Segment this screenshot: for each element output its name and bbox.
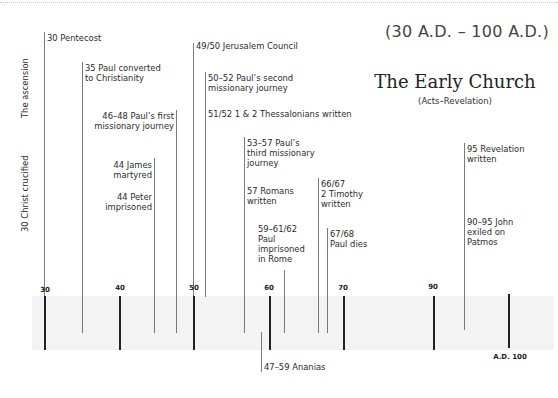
tick-70 [343,296,345,350]
event-peter: 44 Peter imprisoned [105,192,152,212]
event-james: 44 James martyred [113,160,152,180]
paul-dies-line [327,228,328,333]
event-romans: 57 Romans written [247,186,294,206]
event-paul-converted: 35 Paul converted to Christianity [85,63,161,83]
event-revelation: 95 Revelation written [467,144,525,164]
tick-label-90: 90 [428,283,438,291]
tick-label-30: 30 [40,286,50,294]
event-third-journey-line2: third missionary [247,148,315,158]
event-romans-line1: 57 Romans [247,186,294,196]
tick-label-70: 70 [338,284,348,292]
event-third-journey-line1: 53–57 Paul’s [247,138,315,148]
event-revelation-line1: 95 Revelation [467,144,525,154]
tick-90 [433,296,435,350]
tick-label-100: A.D. 100 [493,353,527,361]
event-paul-dies-line2: Paul dies [330,239,367,249]
event-paul-dies-line1: 67/68 [330,229,367,239]
event-pentecost-text: 30 Pentecost [47,33,101,43]
chart-title: The Early Church [370,71,540,92]
event-timothy-line2: 2 Timothy [321,189,363,199]
event-timothy: 66/67 2 Timothy written [321,179,363,209]
timothy-line [318,178,319,333]
tick-label-60: 60 [264,284,274,292]
event-imprisoned: 59–61/62 Paul imprisoned in Rome [258,224,305,264]
event-first-journey-line1: 46–48 Paul’s first [94,111,174,121]
first-journey-line [176,110,177,333]
ascension-label: The ascension [20,58,30,118]
event-second-journey-line2: missionary journey [208,83,293,93]
tick-60 [269,296,271,350]
event-thessalonians: 51/52 1 & 2 Thessalonians written [208,109,352,119]
james-peter-line [154,158,155,333]
event-john-line1: 90–95 John [467,217,513,227]
event-timothy-line3: written [321,199,363,209]
imprisoned-line [284,270,285,333]
event-john-line2: exiled on [467,227,513,237]
event-john-exiled: 90–95 John exiled on Patmos [467,217,513,247]
event-council: 49/50 Jerusalem Council [196,41,298,51]
chart-subtitle: (Acts–Revelation) [370,96,540,106]
event-ananias-text: 47–59 Ananias [264,362,325,372]
tick-label-40: 40 [115,284,125,292]
event-revelation-line2: written [467,154,525,164]
event-thessalonians-text: 51/52 1 & 2 Thessalonians written [208,109,352,119]
tick-30 [44,296,46,350]
event-paul-dies: 67/68 Paul dies [330,229,367,249]
tick-40 [119,296,121,350]
event-james-line2: martyred [113,170,152,180]
tick-label-50: 50 [189,284,199,292]
council-line [193,43,194,296]
timeline-band [32,296,554,350]
event-first-journey: 46–48 Paul’s first missionary journey [94,111,174,131]
event-paul-converted-line1: 35 Paul converted [85,63,161,73]
paul-converted-line [82,62,83,333]
revelation-line [464,143,465,330]
event-peter-line2: imprisoned [105,202,152,212]
crucified-label: 30 Christ crucified [20,155,30,232]
second-journey-line [205,72,206,297]
event-john-line3: Patmos [467,237,513,247]
event-timothy-line1: 66/67 [321,179,363,189]
third-journey-line [244,137,245,333]
event-third-journey-line3: journey [247,158,315,168]
event-council-text: 49/50 Jerusalem Council [196,41,298,51]
date-range-title: (30 A.D. – 100 A.D.) [385,22,549,41]
event-second-journey: 50–52 Paul’s second missionary journey [208,73,293,93]
event-imprisoned-line4: in Rome [258,254,305,264]
event-pentecost: 30 Pentecost [47,33,101,43]
tick-100 [508,294,510,348]
ananias-line [261,332,262,372]
event-second-journey-line1: 50–52 Paul’s second [208,73,293,83]
event-peter-line1: 44 Peter [105,192,152,202]
event-paul-converted-line2: to Christianity [85,73,161,83]
event-imprisoned-line1: 59–61/62 [258,224,305,234]
tick-50 [193,296,195,350]
event-ananias: 47–59 Ananias [264,362,325,372]
top-border [0,2,558,3]
event-first-journey-line2: missionary journey [94,121,174,131]
event-romans-line2: written [247,196,294,206]
event-imprisoned-line2: Paul [258,234,305,244]
pentecost-line [44,32,45,296]
event-third-journey: 53–57 Paul’s third missionary journey [247,138,315,168]
event-imprisoned-line3: imprisoned [258,244,305,254]
event-james-line1: 44 James [113,160,152,170]
